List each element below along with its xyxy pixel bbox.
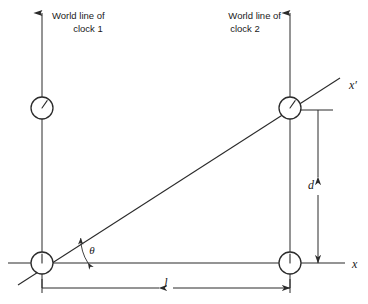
clock-clock-1-later [31,97,53,119]
worldline-clock-1-label-line2: clock 1 [73,23,103,34]
x-axis-label: x [351,257,358,271]
theta-angle-label: θ [89,244,95,256]
worldline-clock-2-label-line2: clock 2 [230,23,260,34]
worldline-clock-1-label-line1: World line of [52,10,105,21]
figure-root: x x′ World line of clock 1 World line of… [0,0,368,304]
clock-clock-1-origin [31,252,53,274]
clock-clock-2-later [279,97,301,119]
spacetime-diagram: x x′ World line of clock 1 World line of… [0,0,368,304]
x-prime-axis-label: x′ [348,78,357,92]
clock-clock-2-origin [279,252,301,274]
d-dimension-label: d [308,178,315,192]
worldline-clock-2-label-line1: World line of [228,10,281,21]
canvas-background [0,0,368,304]
